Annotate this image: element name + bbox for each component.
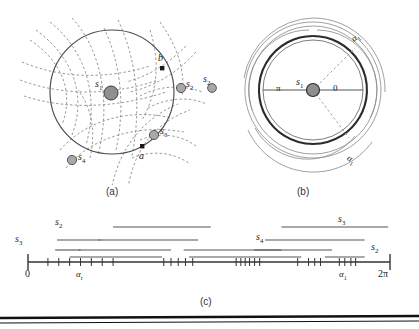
label-a-point-a: a — [139, 150, 144, 161]
label-b-s1: s1 — [296, 76, 303, 89]
label-b-angle-zero: 0 — [333, 83, 338, 93]
interval-bars — [55, 227, 388, 257]
axis-label-alpha-1: α1 — [339, 269, 347, 281]
marker-s3 — [149, 130, 158, 139]
figure-container: s1 s2 s3 s4 a b s1 s2 α1 α1 π 0 (a) (b) … — [0, 0, 419, 329]
marker-s1 — [104, 86, 118, 100]
label-a-s2: s2 — [186, 78, 193, 91]
label-c-s2-right: s2 — [371, 241, 378, 254]
axis-label-start: 0 — [25, 268, 30, 279]
caption-panel-a: (a) — [106, 186, 118, 197]
label-c-s3-left: s3 — [15, 233, 22, 246]
label-a-point-b: b — [158, 52, 163, 63]
label-c-s3-right: s3 — [338, 213, 345, 226]
panel-a-graphics — [20, 18, 206, 188]
axis-label-alpha-r: αr — [76, 269, 83, 281]
marker-b-s1 — [307, 84, 320, 97]
panel-c-graphics — [28, 227, 390, 270]
marker-point-a — [140, 144, 144, 148]
label-a-s1: s1 — [95, 78, 102, 91]
marker-s2 — [176, 83, 185, 92]
label-c-s2-left: s2 — [55, 216, 62, 229]
label-c-s4-mid: s4 — [256, 231, 263, 244]
label-b-angle-pi: π — [276, 83, 281, 93]
label-a-s4: s4 — [78, 151, 85, 164]
marker-s4 — [67, 155, 76, 164]
axis-label-end: 2π — [378, 268, 388, 279]
label-a-s3: s3 — [160, 125, 167, 138]
marker-point-b — [160, 66, 164, 70]
figure-svg — [0, 0, 419, 329]
panel-a-dashed-arcs — [20, 18, 206, 188]
bottom-rule — [0, 316, 419, 323]
caption-panel-c: (c) — [200, 296, 212, 307]
caption-panel-b: (b) — [297, 186, 309, 197]
label-b-s2: s2 — [203, 73, 210, 86]
